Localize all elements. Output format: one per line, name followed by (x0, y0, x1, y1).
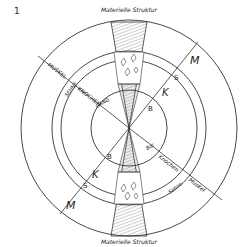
right-knochen-label: Knochen (158, 153, 181, 173)
right-letter-k: K (162, 87, 170, 98)
right-muskel-label: Muskel (188, 176, 207, 193)
right-letter-b: B (148, 105, 153, 113)
concentric-diagram: Materielle Struktur Materielle Struktur … (0, 0, 252, 247)
right-letter-s: S (174, 74, 179, 82)
bottom-label: Materielle Struktur (101, 238, 158, 245)
left-muskel-label: MUSKEL (47, 61, 69, 80)
left-letter-s: S (83, 182, 88, 190)
left-sehne-label: SEHNE (63, 81, 78, 98)
left-letter-b: B (107, 153, 112, 161)
left-letter-m: M (66, 199, 76, 212)
left-letter-k: K (92, 169, 100, 180)
right-letter-m: M (190, 54, 200, 67)
top-label: Materielle Struktur (101, 6, 158, 13)
right-inner-label: Bdl (145, 142, 155, 151)
